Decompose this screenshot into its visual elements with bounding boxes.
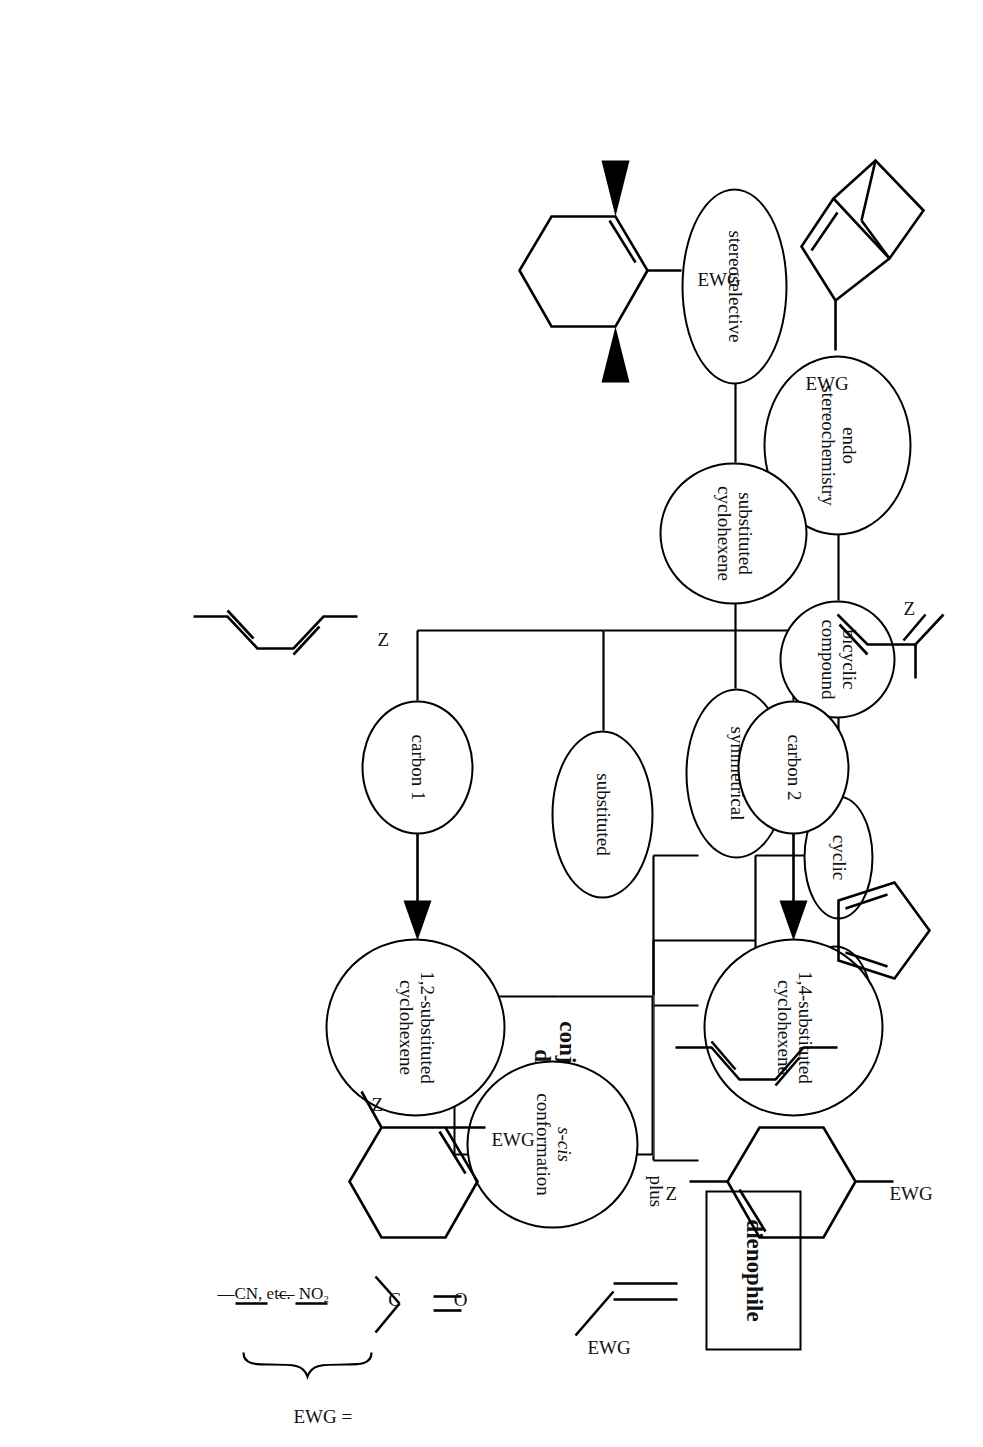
structure-product-1-2 bbox=[273, 1085, 503, 1335]
structure-1-substituted-diene bbox=[161, 600, 371, 670]
node-substituted-label: substituted bbox=[592, 773, 613, 855]
node-substituted[interactable]: substituted bbox=[551, 730, 653, 898]
node-product-1-2-line1: 1,2-substituted bbox=[415, 971, 436, 1083]
structure-norbornene-ewg bbox=[773, 150, 953, 380]
node-substituted-cyclohexene-line1: substituted bbox=[733, 492, 754, 574]
structure-2-substituted-diene bbox=[793, 600, 963, 690]
label-diene1-z: Z bbox=[377, 628, 389, 650]
node-carbon-1-label: carbon 1 bbox=[407, 734, 428, 800]
label-product12-z: Z bbox=[371, 1093, 383, 1115]
node-s-cis-line1: s-cis bbox=[552, 1127, 573, 1162]
label-bicyclic-ewg: EWG bbox=[805, 372, 848, 394]
label-substituted-cyclohexene-ewg: EWG bbox=[697, 268, 740, 290]
node-carbon-2-label: carbon 2 bbox=[783, 734, 804, 800]
node-carbon-2[interactable]: carbon 2 bbox=[737, 700, 849, 834]
structure-cis-disubst-cyclohexene bbox=[465, 120, 665, 400]
figure-canvas: dienophile conjugated diene plus s-cis c… bbox=[0, 0, 983, 1447]
label-product14-ewg: EWG bbox=[889, 1182, 932, 1204]
node-substituted-cyclohexene-line2: cyclohexene bbox=[712, 486, 733, 581]
concept-map: dienophile conjugated diene plus s-cis c… bbox=[0, 0, 983, 1447]
label-product12-ewg: EWG bbox=[491, 1128, 534, 1150]
label-diene2-z: Z bbox=[903, 597, 915, 619]
structure-product-1-4 bbox=[651, 1085, 881, 1335]
node-endo-line2: stereochemistry bbox=[816, 385, 837, 505]
node-product-1-2-line2: cyclohexene bbox=[394, 980, 415, 1075]
node-carbon-1[interactable]: carbon 1 bbox=[361, 700, 473, 834]
label-product14-z: Z bbox=[665, 1182, 677, 1204]
label-ewg-prefix: EWG = bbox=[293, 1405, 352, 1427]
node-substituted-cyclohexene[interactable]: substituted cyclohexene bbox=[659, 462, 807, 604]
structure-cyclopentadiene bbox=[823, 870, 943, 990]
label-dienophile-ewg: EWG bbox=[587, 1336, 630, 1358]
node-endo-line1: endo bbox=[837, 427, 858, 464]
